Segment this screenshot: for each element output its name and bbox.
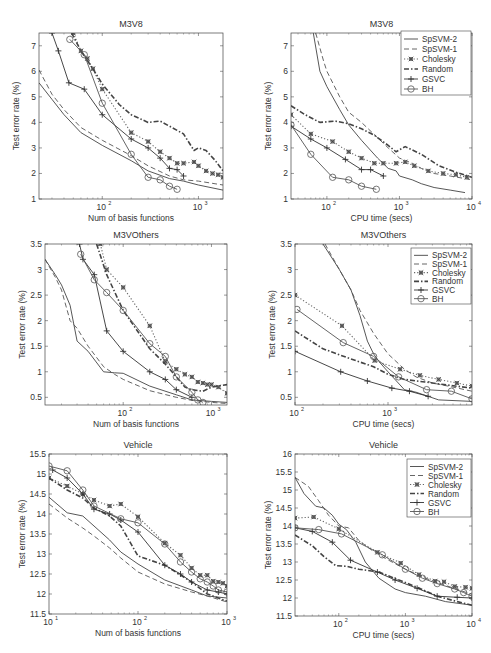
- x-tick-label: 10: [221, 617, 231, 627]
- x-tick-label: 10: [132, 617, 142, 627]
- legend-label: Cholesky: [428, 481, 463, 490]
- y-axis-label: Test error rate (%): [17, 290, 27, 359]
- plus-marker-icon: [55, 48, 61, 54]
- series-line-gsvc: [295, 528, 472, 598]
- plus-marker-icon: [342, 156, 348, 162]
- series-line-bh: [295, 528, 472, 596]
- y-tick-label: 3: [31, 143, 36, 153]
- y-tick-label: 4: [31, 117, 36, 127]
- series-line-random: [97, 244, 227, 391]
- y-tick-label: 1: [37, 367, 42, 377]
- series-line-spsvm-2: [49, 497, 227, 598]
- x-tick-label: 10: [97, 202, 107, 212]
- plus-marker-icon: [368, 167, 374, 173]
- legend-label: Cholesky: [422, 55, 457, 64]
- x-tick-exponent: 2: [108, 200, 111, 206]
- legend-label: Cholesky: [432, 269, 467, 278]
- y-axis-label: Test error rate (%): [11, 82, 21, 151]
- legend-label: SpSVM-1: [422, 45, 457, 54]
- x-tick-exponent: 2: [144, 615, 147, 621]
- plus-marker-icon: [338, 369, 344, 375]
- legend: SpSVM-2SpSVM-1CholeskyRandomGSVCBH: [407, 459, 471, 517]
- chart-panel-vehicle-cpu: Vehicle11.51212.51313.51414.51515.516102…: [263, 440, 481, 640]
- plus-marker-icon: [389, 385, 395, 391]
- series-line-gsvc: [295, 351, 428, 396]
- x-tick-label: 10: [117, 408, 127, 418]
- legend-label: GSVC: [428, 499, 451, 508]
- y-tick-label: 14: [37, 509, 47, 519]
- y-tick-label: 1: [31, 194, 36, 204]
- series-line-random: [49, 478, 227, 601]
- circle-marker-icon: [174, 186, 180, 192]
- y-tick-label: 6: [283, 66, 288, 76]
- chart-title: Vehicle: [123, 440, 152, 450]
- plus-marker-icon: [434, 593, 440, 599]
- x-tick-label: 10: [333, 619, 343, 629]
- x-axis-label: CPU time (secs): [353, 419, 415, 429]
- y-tick-label: 1: [287, 367, 292, 377]
- chart-panel-m3vothers-basis: M3VOthers0.511.522.533.5102103Num of bas…: [17, 230, 229, 429]
- y-tick-label: 0.5: [280, 392, 292, 402]
- y-tick-label: 13.5: [275, 539, 292, 549]
- chart-title: M3V8: [119, 19, 143, 29]
- y-tick-label: 4: [283, 117, 288, 127]
- y-tick-label: 2: [287, 316, 292, 326]
- y-tick-label: 14.5: [275, 503, 292, 513]
- x-tick-exponent: 3: [411, 617, 414, 623]
- plus-marker-icon: [454, 594, 460, 600]
- y-tick-label: 3: [287, 265, 292, 275]
- x-axis-label: Num of basis functions: [95, 628, 181, 638]
- circle-marker-icon: [67, 36, 73, 42]
- legend-label: BH: [432, 295, 443, 304]
- chart-panel-m3v8-basis: M3V81234567102103Num of basis functionsT…: [11, 19, 225, 223]
- y-tick-label: 14.5: [29, 489, 46, 499]
- x-tick-exponent: 2: [333, 200, 336, 206]
- x-tick-exponent: 2: [345, 617, 348, 623]
- y-tick-label: 1.5: [30, 341, 42, 351]
- plus-marker-icon: [425, 393, 431, 399]
- series-line-bh: [70, 39, 177, 189]
- y-axis-label: Test error rate (%): [263, 501, 273, 570]
- y-tick-label: 6: [31, 66, 36, 76]
- y-tick-label: 3.5: [30, 239, 42, 249]
- legend-label: SpSVM-2: [428, 463, 463, 472]
- y-tick-label: 15: [283, 485, 293, 495]
- legend: SpSVM-2SpSVM-1CholeskyRandomGSVCBH: [411, 248, 471, 304]
- y-tick-label: 13: [37, 549, 47, 559]
- legend-label: GSVC: [422, 75, 445, 84]
- y-tick-label: 14: [283, 521, 293, 531]
- x-tick-exponent: 3: [233, 615, 236, 621]
- y-tick-label: 3: [283, 143, 288, 153]
- x-axis-label: Num of basis functions: [88, 213, 174, 223]
- plot-area: [46, 463, 230, 602]
- y-tick-label: 15.5: [29, 449, 46, 459]
- plus-marker-icon: [364, 378, 370, 384]
- x-tick-label: 10: [466, 202, 476, 212]
- y-tick-label: 2: [283, 168, 288, 178]
- plus-marker-icon: [204, 587, 210, 593]
- legend-label: SpSVM-2: [432, 251, 467, 260]
- x-tick-exponent: 2: [129, 406, 132, 412]
- legend-label: Random: [428, 490, 459, 499]
- x-tick-label: 10: [43, 617, 53, 627]
- series-line-cholesky: [291, 115, 467, 178]
- y-tick-label: 12: [283, 593, 293, 603]
- y-tick-label: 2: [31, 168, 36, 178]
- y-tick-label: 2.5: [280, 290, 292, 300]
- plus-marker-icon: [81, 86, 87, 92]
- y-tick-label: 0.5: [30, 392, 42, 402]
- legend-label: Random: [432, 277, 463, 286]
- y-axis-label: Test error rate (%): [263, 82, 273, 151]
- plot-area: [45, 241, 229, 406]
- x-tick-exponent: 4: [478, 200, 481, 206]
- y-tick-label: 2: [37, 316, 42, 326]
- plus-marker-icon: [359, 167, 365, 173]
- x-tick-exponent: 4: [478, 617, 481, 623]
- y-tick-label: 7: [283, 41, 288, 51]
- legend-label: BH: [422, 85, 433, 94]
- chart-title: M3VOthers: [113, 230, 159, 240]
- x-tick-exponent: 1: [55, 615, 58, 621]
- y-tick-label: 16: [283, 449, 293, 459]
- x-tick-exponent: 2: [301, 406, 304, 412]
- y-tick-label: 12.5: [29, 569, 46, 579]
